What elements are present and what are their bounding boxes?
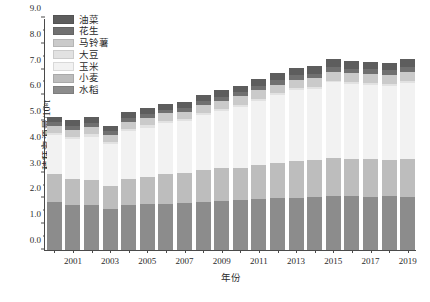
bar-segment-油菜 bbox=[233, 86, 248, 92]
bar-segment-马铃薯 bbox=[344, 73, 359, 82]
bar-segment-小麦 bbox=[307, 160, 322, 197]
bar-segment-大豆 bbox=[251, 99, 266, 101]
bar-segment-玉米 bbox=[140, 128, 155, 177]
legend-item-马铃薯[interactable]: 马铃薯 bbox=[53, 38, 109, 49]
bar-segment-小麦 bbox=[363, 159, 378, 197]
bar-segment-玉米 bbox=[84, 137, 99, 181]
bar-2000 bbox=[47, 117, 62, 250]
bar-segment-水稻 bbox=[121, 205, 136, 250]
bar-segment-花生 bbox=[382, 70, 397, 75]
x-axis-title: 年份 bbox=[221, 270, 241, 284]
bar-segment-花生 bbox=[289, 75, 304, 80]
bar-segment-小麦 bbox=[400, 159, 415, 196]
bar-segment-小麦 bbox=[214, 168, 229, 201]
bar-segment-小麦 bbox=[233, 168, 248, 200]
bar-segment-小麦 bbox=[158, 174, 173, 204]
bar-segment-花生 bbox=[270, 80, 285, 84]
legend-item-花生[interactable]: 花生 bbox=[53, 26, 109, 37]
chart-legend: 油菜花生马铃薯大豆玉米小麦水稻 bbox=[53, 14, 109, 95]
legend-swatch-icon bbox=[53, 15, 74, 24]
bar-segment-玉米 bbox=[363, 85, 378, 159]
bar-2016 bbox=[344, 61, 359, 250]
bar-segment-大豆 bbox=[103, 142, 118, 144]
x-tick-label: 2007 bbox=[176, 256, 194, 266]
x-tick bbox=[333, 250, 334, 253]
y-tick-label: 6.0 bbox=[30, 80, 41, 90]
x-tick bbox=[147, 250, 148, 253]
x-tick bbox=[185, 250, 186, 253]
bar-segment-大豆 bbox=[177, 119, 192, 121]
bar-segment-花生 bbox=[121, 118, 136, 122]
legend-item-油菜[interactable]: 油菜 bbox=[53, 14, 109, 25]
bar-2009 bbox=[214, 90, 229, 250]
y-tick-label: 5.0 bbox=[30, 106, 41, 116]
legend-swatch-icon bbox=[53, 50, 74, 59]
legend-label: 小麦 bbox=[79, 73, 99, 83]
bar-segment-大豆 bbox=[121, 129, 136, 131]
bar-segment-油菜 bbox=[400, 59, 415, 67]
bar-segment-油菜 bbox=[382, 63, 397, 70]
y-tick-label: 2.0 bbox=[30, 183, 41, 193]
legend-item-水稻[interactable]: 水稻 bbox=[53, 85, 109, 96]
bar-segment-花生 bbox=[158, 110, 173, 114]
bar-segment-小麦 bbox=[382, 160, 397, 197]
bar-segment-大豆 bbox=[233, 105, 248, 107]
legend-item-大豆[interactable]: 大豆 bbox=[53, 49, 109, 60]
bar-segment-大豆 bbox=[289, 88, 304, 90]
x-tick bbox=[371, 250, 372, 253]
bar-2004 bbox=[121, 112, 136, 250]
bar-segment-马铃薯 bbox=[47, 126, 62, 133]
bar-segment-油菜 bbox=[47, 117, 62, 122]
bar-segment-花生 bbox=[307, 74, 322, 79]
x-tick bbox=[315, 250, 316, 253]
bar-segment-大豆 bbox=[382, 84, 397, 86]
bar-segment-玉米 bbox=[270, 95, 285, 163]
legend-label: 马铃薯 bbox=[79, 38, 109, 48]
bar-segment-水稻 bbox=[158, 204, 173, 250]
bar-segment-水稻 bbox=[233, 200, 248, 250]
bar-segment-小麦 bbox=[289, 161, 304, 198]
bar-segment-玉米 bbox=[289, 90, 304, 161]
x-tick-label: 2015 bbox=[324, 256, 342, 266]
x-tick bbox=[352, 250, 353, 253]
x-tick bbox=[389, 250, 390, 253]
bar-segment-马铃薯 bbox=[196, 105, 211, 113]
bar-2010 bbox=[233, 86, 248, 250]
y-tick-label: 7.0 bbox=[30, 55, 41, 65]
bar-segment-水稻 bbox=[177, 203, 192, 250]
bar-2002 bbox=[84, 117, 99, 250]
bar-segment-马铃薯 bbox=[65, 130, 80, 137]
bar-segment-水稻 bbox=[196, 202, 211, 250]
legend-item-小麦[interactable]: 小麦 bbox=[53, 73, 109, 84]
bar-2017 bbox=[363, 62, 378, 250]
bar-segment-小麦 bbox=[177, 173, 192, 203]
bar-segment-水稻 bbox=[400, 197, 415, 250]
bar-segment-玉米 bbox=[196, 115, 211, 170]
y-tick-label: 4.0 bbox=[30, 132, 41, 142]
bar-segment-玉米 bbox=[121, 131, 136, 179]
bar-segment-花生 bbox=[47, 122, 62, 126]
bar-segment-水稻 bbox=[251, 199, 266, 250]
bar-segment-油菜 bbox=[196, 95, 211, 101]
x-tick-label: 2019 bbox=[399, 256, 417, 266]
bar-segment-水稻 bbox=[103, 209, 118, 250]
x-tick bbox=[203, 250, 204, 253]
x-tick-label: 2017 bbox=[362, 256, 380, 266]
bar-segment-马铃薯 bbox=[289, 80, 304, 89]
bar-segment-大豆 bbox=[400, 81, 415, 84]
x-tick-label: 2009 bbox=[213, 256, 231, 266]
bar-segment-小麦 bbox=[270, 163, 285, 199]
x-tick bbox=[259, 250, 260, 253]
bar-segment-马铃薯 bbox=[251, 90, 266, 99]
bar-segment-马铃薯 bbox=[84, 127, 99, 134]
bar-segment-小麦 bbox=[47, 174, 62, 202]
x-tick-label: 2011 bbox=[250, 256, 268, 266]
bar-segment-水稻 bbox=[363, 197, 378, 250]
x-tick-label: 2013 bbox=[287, 256, 305, 266]
bar-segment-油菜 bbox=[214, 90, 229, 96]
bar-segment-花生 bbox=[103, 131, 118, 135]
bar-segment-油菜 bbox=[84, 117, 99, 123]
bar-segment-水稻 bbox=[307, 197, 322, 250]
bar-2001 bbox=[65, 120, 80, 250]
legend-item-玉米[interactable]: 玉米 bbox=[53, 61, 109, 72]
